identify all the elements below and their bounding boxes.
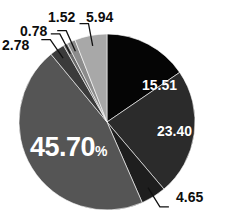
percent-sign: %: [95, 143, 107, 159]
slice-label-1-52: 1.52: [48, 10, 75, 24]
slice-label-2-78: 2.78: [2, 38, 29, 52]
slice-label-5-94: 5.94: [86, 10, 113, 24]
slice-label-45-70-value: 45.70: [30, 132, 95, 162]
pie-slice-group: [19, 34, 195, 210]
slice-label-4-65: 4.65: [176, 190, 203, 204]
slice-label-0-78: 0.78: [20, 24, 47, 38]
pie-chart-figure: — ——— — —— —— — — —— ———— — 15.51 23.40 …: [0, 0, 233, 222]
slice-label-23-40: 23.40: [157, 124, 192, 138]
slice-label-45-70: 45.70%: [30, 134, 108, 161]
slice-label-15-51: 15.51: [142, 78, 177, 92]
